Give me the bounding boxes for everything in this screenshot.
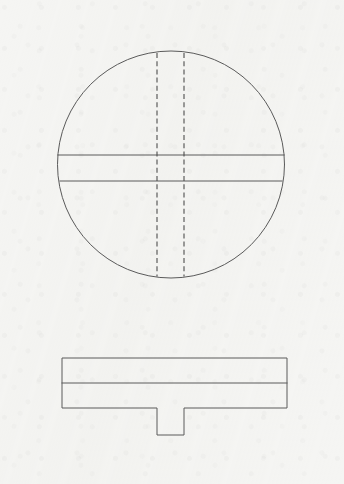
technical-drawing-canvas (0, 0, 344, 484)
top-view-outer-circle (58, 51, 285, 278)
top-view-group (58, 51, 285, 278)
front-view-outline (62, 358, 287, 435)
front-view-group (62, 358, 287, 435)
drawing-page (0, 0, 344, 484)
